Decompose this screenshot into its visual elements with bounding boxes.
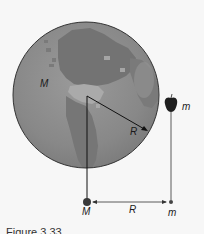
apple-icon bbox=[165, 94, 178, 112]
apple-mass-label: m bbox=[182, 102, 190, 112]
point-mass-m-label: m bbox=[168, 208, 176, 218]
earth-globe bbox=[13, 22, 159, 170]
distance-label: R bbox=[129, 205, 136, 215]
point-mass-M bbox=[83, 198, 91, 206]
earth-mass-label: M bbox=[40, 79, 48, 89]
gravity-diagram: M R m M R m Figure 3.33 bbox=[0, 0, 204, 234]
diagram-canvas bbox=[0, 0, 204, 234]
radius-label: R bbox=[130, 127, 137, 137]
point-mass-m bbox=[169, 200, 173, 204]
figure-caption: Figure 3.33 bbox=[6, 226, 62, 234]
point-mass-M-label: M bbox=[82, 207, 90, 217]
